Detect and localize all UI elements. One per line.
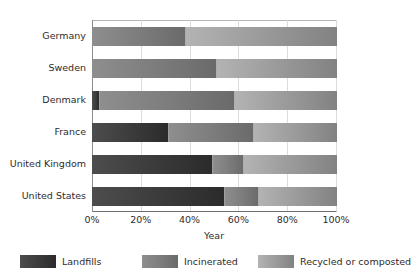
- bar-row: [92, 59, 336, 78]
- bar-segment: [92, 123, 168, 142]
- bar-row: [92, 91, 336, 110]
- category-label-france: France: [54, 126, 86, 137]
- legend-item-incinerated[interactable]: Incinerated: [142, 254, 238, 268]
- bar-row: [92, 187, 336, 206]
- x-tick-label: 60%: [228, 214, 249, 225]
- bar-segment: [234, 91, 337, 110]
- category-label-sweden: Sweden: [48, 62, 86, 73]
- category-label-united-kingdom: United Kingdom: [10, 158, 86, 169]
- legend-swatch-icon: [258, 255, 294, 268]
- legend-swatch-icon: [20, 255, 56, 268]
- bar-row: [92, 155, 336, 174]
- bar-segment: [168, 123, 254, 142]
- gridline-100: [336, 20, 337, 211]
- x-tick-label: 80%: [277, 214, 298, 225]
- bar-segment: [253, 123, 337, 142]
- category-label-germany: Germany: [42, 30, 86, 41]
- x-tick-label: 40%: [179, 214, 200, 225]
- bar-segment: [92, 27, 185, 46]
- x-tick-label: 20%: [130, 214, 151, 225]
- x-tick-label: 100%: [322, 214, 349, 225]
- chart-legend: LandfillsIncineratedRecycled or composte…: [20, 254, 350, 270]
- bar-segment: [92, 187, 224, 206]
- bar-row: [92, 27, 336, 46]
- bars-layer: [92, 20, 336, 212]
- bar-segment: [185, 27, 337, 46]
- x-tick-label: 0%: [84, 214, 99, 225]
- category-label-united-states: United States: [22, 190, 86, 201]
- legend-label: Recycled or composted: [300, 256, 411, 267]
- bar-segment: [224, 187, 259, 206]
- bar-segment: [92, 91, 99, 110]
- bar-segment: [258, 187, 337, 206]
- legend-label: Landfills: [62, 256, 101, 267]
- bar-row: [92, 123, 336, 142]
- bar-segment: [99, 91, 234, 110]
- category-label-denmark: Denmark: [42, 94, 86, 105]
- legend-swatch-icon: [142, 255, 178, 268]
- bar-segment: [216, 59, 337, 78]
- bar-segment: [92, 155, 212, 174]
- x-axis-title: Year: [92, 230, 336, 241]
- legend-label: Incinerated: [184, 256, 238, 267]
- legend-item-landfills[interactable]: Landfills: [20, 254, 101, 268]
- bar-segment: [92, 59, 216, 78]
- bar-segment: [212, 155, 245, 174]
- bar-segment: [243, 155, 337, 174]
- legend-item-recycled-or-composted[interactable]: Recycled or composted: [258, 254, 411, 268]
